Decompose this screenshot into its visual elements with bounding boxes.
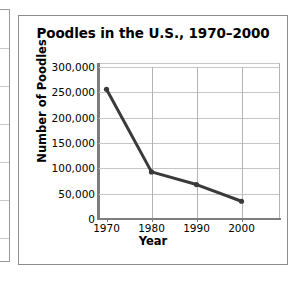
table-rule bbox=[0, 86, 9, 87]
data-point-marker bbox=[104, 87, 109, 92]
y-tick-label: 100,000 bbox=[19, 162, 95, 174]
table-rule bbox=[0, 162, 9, 163]
y-tick-label: 300,000 bbox=[19, 61, 95, 73]
table-rule bbox=[0, 124, 9, 125]
plot-area: 050,000100,000150,000200,000250,000300,0… bbox=[99, 67, 279, 219]
y-tick-label: 200,000 bbox=[19, 112, 95, 124]
adjacent-table-edge bbox=[0, 9, 10, 262]
data-point-marker bbox=[194, 182, 199, 187]
data-point-marker bbox=[239, 199, 244, 204]
y-tick-label: 50,000 bbox=[19, 188, 95, 200]
data-series-line bbox=[99, 67, 280, 219]
y-axis-title: Number of Poodles bbox=[35, 31, 49, 171]
y-tick-label: 250,000 bbox=[19, 86, 95, 98]
chart-card: Poodles in the U.S., 1970–2000 Number of… bbox=[18, 15, 288, 265]
plot-frame-top bbox=[99, 63, 280, 64]
x-tick-label: 2000 bbox=[212, 222, 272, 234]
x-axis-title: Year bbox=[19, 234, 287, 248]
data-point-marker bbox=[149, 169, 154, 174]
table-rule bbox=[0, 238, 9, 239]
table-rule bbox=[0, 200, 9, 201]
table-rule bbox=[0, 48, 9, 49]
chart-title: Poodles in the U.S., 1970–2000 bbox=[19, 25, 287, 41]
y-tick-label: 150,000 bbox=[19, 137, 95, 149]
